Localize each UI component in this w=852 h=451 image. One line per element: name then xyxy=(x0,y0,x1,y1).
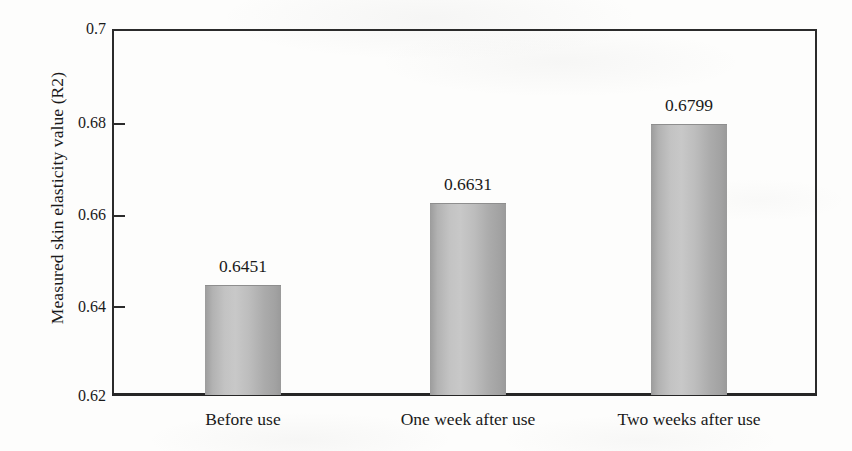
x-tick-label-two-weeks-after-use: Two weeks after use xyxy=(589,411,789,429)
chart-figure: Measured skin elasticity value (R2) 0.7 … xyxy=(0,0,852,451)
bar-two-weeks-after-use xyxy=(651,124,727,395)
bar-one-week-after-use xyxy=(430,203,506,395)
bar-value-one-week-after-use: 0.6631 xyxy=(408,176,528,194)
y-axis-title: Measured skin elasticity value (R2) xyxy=(42,0,72,396)
y-tick-label-0.64: 0.64 xyxy=(46,297,106,317)
x-tick-label-one-week-after-use: One week after use xyxy=(368,411,568,429)
y-tick-label-0.62: 0.62 xyxy=(46,386,106,406)
y-tick-label-0.68: 0.68 xyxy=(46,113,106,133)
y-tick-label-0.7: 0.7 xyxy=(46,19,106,39)
y-tick-text: 0.66 xyxy=(78,206,106,224)
bar-before-use xyxy=(205,285,281,395)
bar-value-two-weeks-after-use: 0.6799 xyxy=(629,97,749,115)
x-tick-label-before-use: Before use xyxy=(163,411,323,429)
bar-value-before-use: 0.6451 xyxy=(183,258,303,276)
y-tick-label-0.66: 0.66 xyxy=(46,205,106,225)
y-tick-text: 0.62 xyxy=(78,387,106,405)
y-axis-title-label: Measured skin elasticity value (R2) xyxy=(47,72,68,324)
y-tick-text: 0.7 xyxy=(86,20,106,38)
y-tick-text: 0.68 xyxy=(78,114,106,132)
y-tick-text: 0.64 xyxy=(78,298,106,316)
